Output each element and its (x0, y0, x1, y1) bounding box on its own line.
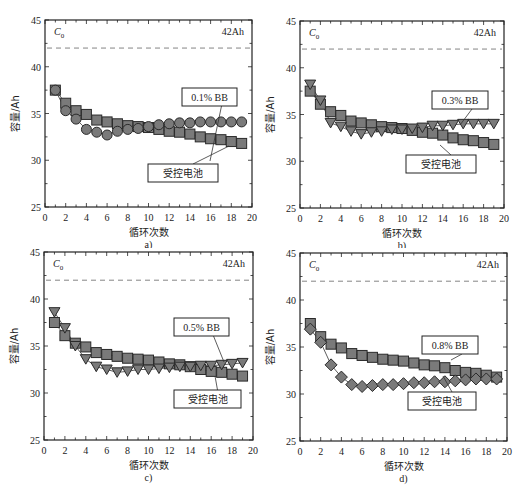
y-tick-label: 25 (30, 435, 40, 446)
control-annotation-label: 受控电池 (188, 393, 228, 405)
x-tick-label: 16 (206, 212, 216, 223)
x-tick-label: 12 (419, 446, 429, 457)
y-tick-label: 40 (30, 294, 40, 305)
x-tick-label: 18 (479, 213, 489, 224)
y-tick-label: 25 (286, 203, 296, 214)
chart-panel-d: 024681012141618202530354045C042Ah0.8% BB… (261, 248, 522, 497)
x-tick-label: 12 (164, 445, 174, 456)
control-annotation-label: 受控电池 (163, 167, 203, 179)
y-tick-label: 25 (31, 202, 41, 213)
x-tick-label: 8 (379, 213, 384, 224)
ref-value-label: 42Ah (222, 26, 244, 37)
y-tick-label: 45 (31, 15, 41, 26)
x-tick-label: 16 (461, 446, 471, 457)
x-tick-label: 12 (417, 213, 427, 224)
x-axis-label: 循环次数 (384, 460, 424, 472)
x-tick-label: 4 (83, 445, 88, 456)
y-tick-label: 30 (30, 388, 40, 399)
c0-label: C0 (309, 27, 320, 41)
x-tick-label: 6 (105, 212, 110, 223)
x-tick-label: 6 (359, 213, 364, 224)
x-tick-label: 14 (185, 212, 195, 223)
ref-value-label: 42Ah (474, 27, 496, 38)
x-tick-label: 10 (144, 445, 154, 456)
y-tick-label: 40 (286, 295, 296, 306)
y-tick-label: 35 (30, 341, 40, 352)
x-tick-label: 18 (226, 212, 236, 223)
panel-label: a) (145, 239, 153, 248)
control-annotation-label: 受控电池 (422, 395, 462, 407)
c0-label: C0 (53, 258, 64, 272)
chart-panel-a: 024681012141618202530354045C042Ah0.1% BB… (0, 0, 261, 248)
x-tick-label: 6 (360, 446, 365, 457)
x-tick-label: 0 (298, 446, 303, 457)
c0-label: C0 (54, 26, 65, 40)
c0-label: C0 (309, 259, 320, 273)
y-axis-label: 容量/Ah (264, 96, 276, 133)
y-tick-label: 30 (286, 389, 296, 400)
x-tick-label: 16 (206, 445, 216, 456)
bb-annotation-label: 0.1% BB (191, 92, 228, 103)
x-tick-label: 4 (84, 212, 89, 223)
x-tick-label: 20 (247, 212, 257, 223)
y-tick-label: 45 (286, 248, 296, 259)
y-axis-label: 容量/Ah (264, 329, 276, 366)
x-tick-label: 2 (318, 446, 323, 457)
x-tick-label: 10 (397, 213, 407, 224)
ref-value-label: 42Ah (477, 259, 499, 270)
bb-annotation-label: 0.8% BB (432, 340, 469, 351)
x-tick-label: 8 (125, 212, 130, 223)
bb-annotation-label: 0.5% BB (183, 322, 220, 333)
y-tick-label: 45 (286, 16, 296, 27)
y-axis-label: 容量/Ah (8, 328, 20, 365)
x-tick-label: 14 (438, 213, 448, 224)
x-tick-label: 6 (104, 445, 109, 456)
x-axis-label: 循环次数 (129, 226, 169, 238)
x-tick-label: 0 (42, 445, 47, 456)
panel-label: b) (398, 240, 406, 248)
x-tick-label: 8 (125, 445, 130, 456)
y-axis-label: 容量/Ah (9, 95, 21, 132)
x-tick-label: 0 (298, 213, 303, 224)
x-tick-label: 16 (458, 213, 468, 224)
ref-value-label: 42Ah (223, 258, 245, 269)
x-tick-label: 2 (318, 213, 323, 224)
y-tick-label: 35 (286, 110, 296, 121)
x-tick-label: 20 (248, 445, 258, 456)
x-tick-label: 4 (338, 213, 343, 224)
bb-annotation-label: 0.3% BB (442, 95, 479, 106)
y-tick-label: 40 (31, 62, 41, 73)
x-tick-label: 0 (43, 212, 48, 223)
chart-svg-b: 024681012141618202530354045C042Ah0.3% BB… (261, 0, 522, 248)
panel-label: d) (399, 473, 407, 485)
y-tick-label: 30 (286, 156, 296, 167)
x-tick-label: 10 (144, 212, 154, 223)
chart-panel-b: 024681012141618202530354045C042Ah0.3% BB… (261, 0, 522, 248)
x-tick-label: 8 (380, 446, 385, 457)
x-tick-label: 14 (440, 446, 450, 457)
x-tick-label: 18 (481, 446, 491, 457)
x-tick-label: 10 (399, 446, 409, 457)
chart-panel-c: 024681012141618202530354045C042Ah0.5% BB… (0, 248, 261, 497)
x-tick-label: 20 (502, 446, 512, 457)
x-tick-label: 2 (63, 212, 68, 223)
y-tick-label: 40 (286, 63, 296, 74)
control-annotation-label: 受控电池 (421, 158, 461, 170)
panel-label: c) (145, 472, 153, 484)
chart-svg-a: 024681012141618202530354045C042Ah0.1% BB… (0, 0, 261, 248)
y-tick-label: 45 (30, 248, 40, 258)
y-tick-label: 35 (286, 342, 296, 353)
x-axis-label: 循环次数 (382, 227, 422, 239)
y-tick-label: 35 (31, 109, 41, 120)
x-tick-label: 2 (62, 445, 67, 456)
x-tick-label: 18 (227, 445, 237, 456)
chart-svg-d: 024681012141618202530354045C042Ah0.8% BB… (261, 248, 522, 497)
x-tick-label: 4 (339, 446, 344, 457)
y-tick-label: 30 (31, 155, 41, 166)
y-tick-label: 25 (286, 436, 296, 447)
x-axis-label: 循环次数 (129, 459, 169, 471)
chart-svg-c: 024681012141618202530354045C042Ah0.5% BB… (0, 248, 261, 497)
x-tick-label: 20 (499, 213, 509, 224)
x-tick-label: 14 (185, 445, 195, 456)
x-tick-label: 12 (164, 212, 174, 223)
